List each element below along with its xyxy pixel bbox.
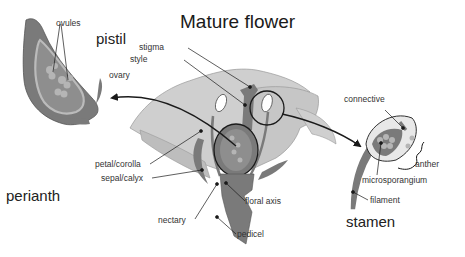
microsporangium-label: microsporangium [362, 176, 427, 185]
pistil-group-label: pistil [96, 31, 126, 46]
pedicel-label: pedicel [237, 230, 264, 239]
filament-label: filament [370, 196, 400, 205]
ovary-label: ovary [109, 71, 130, 80]
flower-diagram [0, 0, 465, 257]
floral-axis-label: floral axis [245, 197, 281, 206]
diagram-title: Mature flower [180, 12, 295, 31]
stamen-group-label: stamen [346, 214, 395, 229]
style-label: style [130, 55, 147, 64]
nectary-label: nectary [158, 216, 186, 225]
anther-label: anther [415, 160, 439, 169]
sepal-calyx-label: sepal/calyx [101, 174, 143, 183]
connective-label: connective [344, 95, 385, 104]
perianth-group-label: perianth [6, 188, 60, 203]
petal-corolla-label: petal/corolla [95, 160, 141, 169]
stigma-label: stigma [139, 43, 164, 52]
pistil-illustration [23, 19, 102, 125]
ovules-label: ovules [56, 19, 81, 28]
